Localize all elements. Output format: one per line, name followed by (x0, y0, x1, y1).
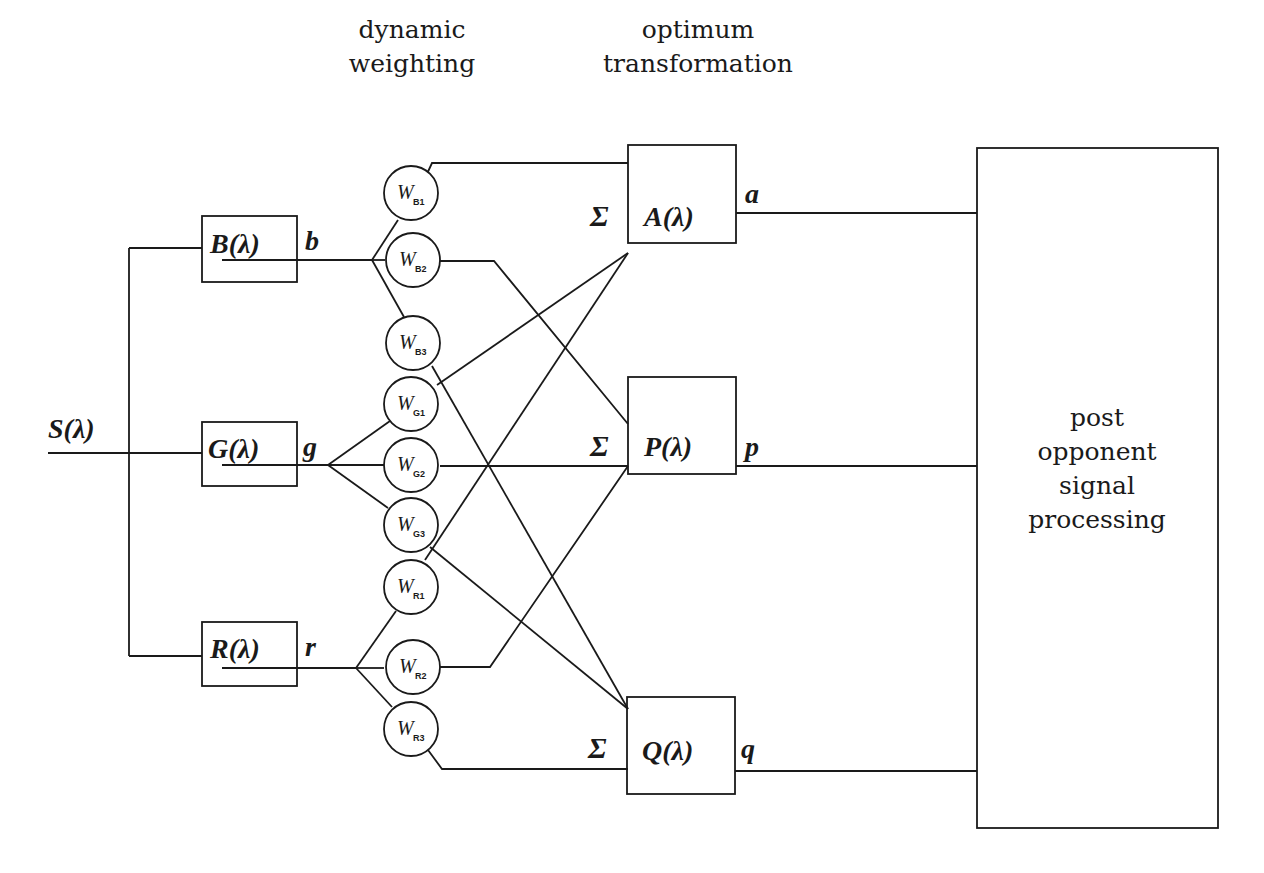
receptor-g: G(λ) g (202, 422, 328, 486)
svg-text:G2: G2 (413, 469, 425, 479)
transform-p: Σ P(λ) p (589, 377, 977, 474)
svg-text:R1: R1 (413, 591, 425, 601)
weight-wb3: W B3 (386, 316, 440, 370)
weight-wg2: W G2 (384, 438, 438, 492)
transform-a-label: A(λ) (642, 201, 694, 232)
svg-text:B2: B2 (415, 264, 427, 274)
input-label: S(λ) (48, 413, 95, 444)
svg-text:R2: R2 (415, 671, 427, 681)
transform-p-sum: Σ (589, 429, 609, 462)
weight-wr3: W R3 (384, 702, 438, 756)
svg-text:G1: G1 (413, 408, 425, 418)
post-line3: signal (1059, 471, 1135, 500)
svg-text:R3: R3 (413, 733, 425, 743)
receptor-b: B(λ) b (202, 216, 372, 282)
svg-text:B3: B3 (415, 347, 427, 357)
weight-wb2: W B2 (386, 233, 440, 287)
receptor-g-output: g (302, 431, 317, 462)
transform-q-output: q (741, 733, 755, 764)
receptor-b-output: b (305, 225, 319, 256)
post-processing: post opponent signal processing (977, 148, 1218, 828)
wg3-to-q (430, 547, 628, 709)
transform-q: Σ Q(λ) q (587, 697, 977, 794)
svg-text:B1: B1 (413, 197, 425, 207)
receptor-b-label: B(λ) (209, 228, 260, 259)
post-line1: post (1070, 403, 1124, 432)
weight-wg1: W G1 (384, 377, 438, 431)
transform-q-label: Q(λ) (642, 735, 693, 766)
heading-dynamic-line1: dynamic (359, 15, 466, 44)
transform-q-sum: Σ (587, 731, 607, 764)
weight-wg3: W G3 (384, 498, 438, 552)
heading-optimum-line1: optimum (642, 15, 755, 44)
wg1-to-a (437, 253, 628, 385)
transform-a-output: a (745, 178, 759, 209)
heading-optimum-line2: transformation (603, 49, 793, 78)
input-stage: S(λ) (48, 248, 202, 656)
receptor-r-label: R(λ) (209, 633, 260, 664)
receptor-g-label: G(λ) (208, 433, 259, 464)
post-line4: processing (1028, 505, 1166, 534)
post-line2: opponent (1037, 437, 1156, 466)
wb1-to-a (426, 163, 628, 176)
weight-wr2: W R2 (386, 640, 440, 694)
weight-wb1: W B1 (384, 166, 438, 220)
weight-circles: W B1 W B2 W B3 W G1 W G2 W G3 (384, 166, 440, 756)
receptor-r: R(λ) r (202, 622, 356, 686)
wb2-to-p (440, 261, 628, 424)
transform-a-sum: Σ (589, 199, 609, 232)
weight-connections (425, 163, 628, 769)
transform-a: Σ A(λ) a (589, 145, 977, 243)
transform-p-label: P(λ) (643, 431, 692, 462)
opponent-color-model-diagram: dynamic weighting optimum transformation… (0, 0, 1264, 873)
heading-optimum-transformation: optimum transformation (603, 15, 793, 78)
transform-p-output: p (743, 431, 759, 462)
heading-dynamic-line2: weighting (349, 49, 475, 78)
heading-dynamic-weighting: dynamic weighting (349, 15, 475, 78)
weight-wr1: W R1 (384, 560, 438, 614)
wb3-to-q (432, 366, 628, 709)
receptor-r-output: r (305, 631, 317, 662)
svg-text:G3: G3 (413, 529, 425, 539)
